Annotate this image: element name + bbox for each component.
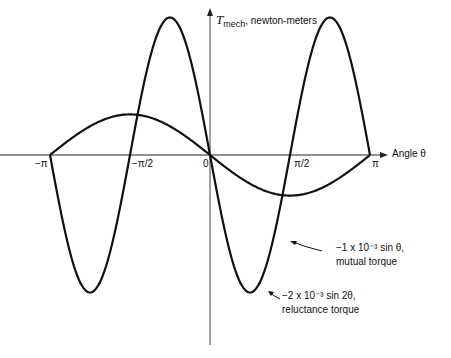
y-axis-label: Tmech, newton-meters [216, 12, 317, 29]
tick-neg-pi: −π [35, 158, 48, 169]
y-units: , newton-meters [245, 15, 317, 26]
arrowhead [290, 241, 297, 245]
tick-pi: π [372, 158, 379, 169]
y-subscript: mech [223, 19, 245, 29]
torque-plot [0, 0, 451, 358]
reluct-formula: −2 x 10⁻³ sin 2θ, [282, 290, 356, 301]
mutual-formula: −1 x 10⁻³ sin θ, [336, 242, 404, 253]
reluct-name: reluctance torque [282, 304, 359, 315]
mutual-leader-arrow [293, 242, 322, 251]
tick-neg-half-pi: −π/2 [132, 158, 153, 169]
mutual-name: mutual torque [336, 256, 397, 267]
x-axis-arrow [380, 152, 388, 158]
tick-zero: 0 [203, 158, 209, 169]
tick-half-pi: π/2 [294, 158, 309, 169]
x-axis-label: Angle θ [392, 148, 426, 159]
y-axis-arrow [207, 8, 213, 16]
